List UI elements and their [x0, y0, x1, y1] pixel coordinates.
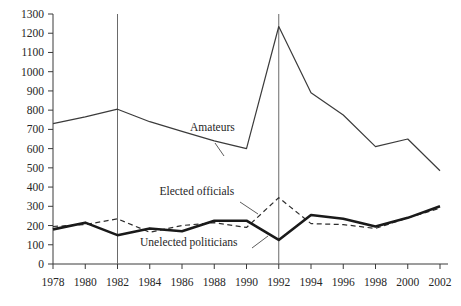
y-axis: 0100200300400500600700800900100011001200…	[21, 8, 53, 270]
y-tick-label: 500	[27, 162, 45, 174]
y-tick-label: 800	[27, 104, 45, 116]
annotation-leader-line	[240, 202, 258, 214]
line-chart: 0100200300400500600700800900100011001200…	[0, 0, 461, 306]
y-tick-label: 100	[27, 239, 45, 251]
y-tick-label: 1100	[21, 46, 44, 58]
x-tick-label: 1990	[235, 276, 258, 288]
x-tick-label: 1982	[106, 276, 129, 288]
y-tick-label: 1000	[21, 66, 44, 78]
series-line-unelected-politicians	[53, 206, 440, 240]
x-tick-label: 1988	[203, 276, 226, 288]
chart-container: 0100200300400500600700800900100011001200…	[0, 0, 461, 306]
x-tick-label: 1996	[332, 276, 355, 288]
annotation-label: Elected officials	[159, 185, 234, 197]
series-line-elected-officials	[53, 198, 440, 233]
series-lines	[53, 27, 440, 240]
y-tick-label: 600	[27, 143, 45, 155]
x-tick-label: 1984	[138, 276, 161, 288]
y-tick-label: 900	[27, 85, 45, 97]
x-tick-label: 1980	[74, 276, 97, 288]
y-tick-label: 1300	[21, 8, 44, 20]
annotation-label: Amateurs	[190, 121, 235, 133]
y-tick-label: 0	[38, 258, 44, 270]
x-tick-label: 1998	[364, 276, 387, 288]
annotation-label: Unelected politicians	[140, 236, 238, 249]
x-tick-label: 1994	[300, 276, 323, 288]
x-tick-label: 1986	[171, 276, 194, 288]
annotation-leader-line	[252, 236, 268, 248]
y-tick-label: 400	[27, 181, 45, 193]
y-tick-label: 700	[27, 123, 45, 135]
y-tick-label: 300	[27, 200, 45, 212]
x-tick-label: 1992	[267, 276, 290, 288]
series-line-amateurs	[53, 27, 440, 171]
x-axis: 1978198019821984198619881990199219941996…	[42, 264, 452, 288]
x-tick-label: 2002	[429, 276, 452, 288]
x-tick-label: 1978	[42, 276, 65, 288]
annotation-leader-line	[215, 143, 224, 156]
x-tick-label: 2000	[396, 276, 419, 288]
y-tick-label: 200	[27, 220, 45, 232]
y-tick-label: 1200	[21, 27, 44, 39]
